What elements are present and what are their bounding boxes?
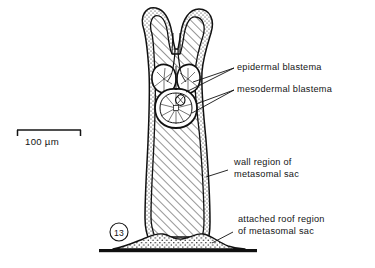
leader-wall-region <box>206 170 228 177</box>
label-wall-region-line1: wall region of <box>234 157 299 169</box>
figure-number-label: 13 <box>110 228 128 238</box>
label-attached-roof-line1: attached roof region <box>238 214 325 226</box>
label-wall-region-line2: metasomal sac <box>234 169 299 181</box>
label-attached-roof-region: attached roof region of metasomal sac <box>238 214 325 237</box>
leader-attached-roof <box>212 232 233 243</box>
scale-bar-label: 100 µm <box>25 136 59 147</box>
label-mesodermal-blastema: mesodermal blastema <box>237 84 332 96</box>
baseline-bar <box>99 249 257 252</box>
label-epidermal-blastema: epidermal blastema <box>237 62 322 74</box>
label-wall-region: wall region of metasomal sac <box>234 157 299 180</box>
blastema-nucleus-cluster <box>176 95 185 106</box>
blastema-complex <box>152 64 200 128</box>
figure-13-metasomal-sac: 100 µm epidermal blastema mesodermal bla… <box>0 0 375 268</box>
label-attached-roof-line2: of metasomal sac <box>238 226 325 238</box>
